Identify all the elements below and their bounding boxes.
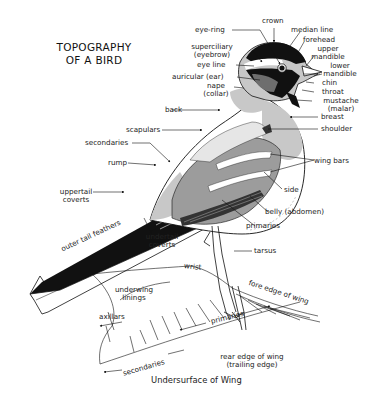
label-nape-line2: (collar)	[196, 90, 236, 98]
label-eye-ring: eye-ring	[195, 26, 225, 34]
label-nape: nape (collar)	[196, 82, 236, 99]
label-wrist: wrist	[184, 262, 202, 272]
title-line-2: OF A BIRD	[44, 54, 144, 67]
label-back: back	[165, 106, 182, 114]
label-rear-edge-line2: (trailing edge)	[212, 361, 292, 369]
wing-caption: Undersurface of Wing	[151, 375, 242, 385]
label-superciliary: superciliary (eyebrow)	[180, 43, 244, 60]
label-underwing-linings: underwing linings	[110, 286, 158, 303]
label-rear-edge-of-wing: rear edge of wing (trailing edge)	[212, 353, 292, 370]
label-secondaries: secondaries	[85, 139, 128, 147]
label-primaries: primaries	[246, 222, 280, 230]
legs-illustration	[204, 226, 244, 322]
underwing-illustration	[92, 266, 320, 364]
label-scapulars: scapulars	[126, 126, 160, 134]
label-rump: rump	[108, 159, 127, 167]
label-crown: crown	[262, 17, 284, 25]
label-breast: breast	[321, 113, 344, 121]
label-undertail-coverts: undertail coverts	[141, 233, 183, 250]
label-wing-bars: wing bars	[314, 157, 349, 165]
label-eye-line: eye line	[197, 61, 225, 69]
label-undertail-coverts-line2: coverts	[141, 241, 183, 249]
label-underwing-linings-line2: linings	[110, 294, 158, 302]
label-median-line: median line	[291, 26, 333, 34]
label-shoulder: shoulder	[321, 125, 352, 133]
label-axillars: axillars	[99, 313, 125, 321]
label-superciliary-line2: (eyebrow)	[180, 51, 244, 59]
label-upper-mandible: upper mandible	[306, 45, 350, 62]
label-side: side	[284, 186, 299, 194]
label-uppertail-coverts-line2: coverts	[56, 196, 96, 204]
label-tarsus: tarsus	[254, 247, 276, 255]
label-belly: belly (abdomen)	[265, 208, 324, 216]
diagram-title: TOPOGRAPHY OF A BIRD	[44, 41, 144, 67]
bird-topography-diagram: TOPOGRAPHY OF A BIRD crown eye-ring medi…	[0, 0, 373, 406]
label-lower-mandible: lower mandible	[318, 62, 362, 79]
label-uppertail-coverts: uppertail coverts	[56, 188, 96, 205]
title-line-1: TOPOGRAPHY	[44, 41, 144, 54]
